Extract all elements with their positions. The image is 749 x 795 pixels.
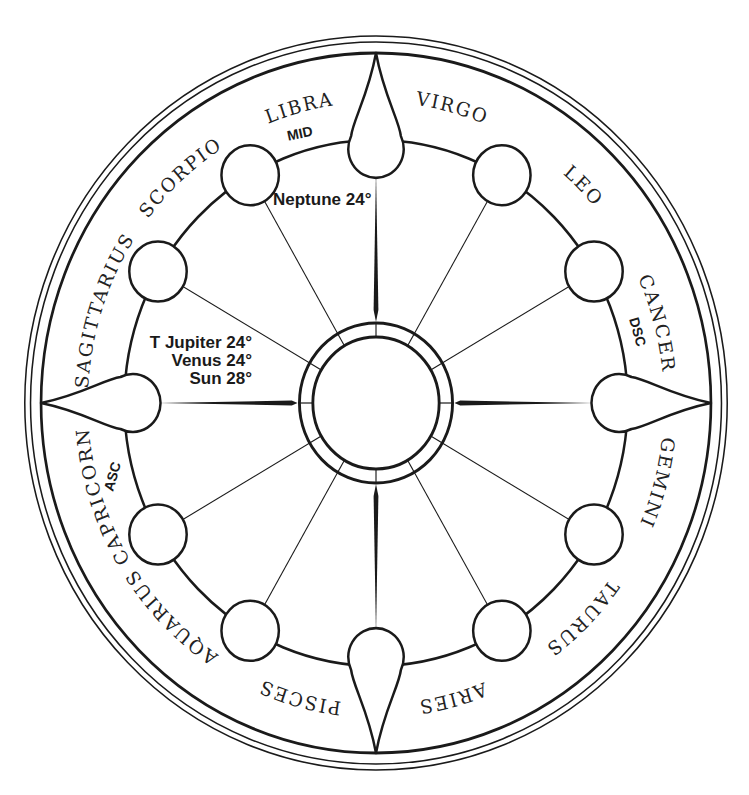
sign-libra: LIBRA [262, 88, 335, 128]
house-node [565, 505, 622, 565]
svg-text:LEO: LEO [560, 161, 607, 211]
astrology-chart-wheel: CAPRICORN SAGITTARIUS SCORPIO LIBRA VIRG… [0, 0, 749, 795]
house-node [129, 505, 186, 565]
house-node [565, 242, 622, 302]
cusp-top-mc [348, 53, 404, 178]
svg-text:LIBRA: LIBRA [262, 88, 335, 128]
svg-text:VIRGO: VIRGO [414, 87, 492, 128]
house-node [221, 145, 278, 205]
cusp-bottom-ic [348, 628, 404, 753]
cusp-left-asc [41, 374, 160, 432]
planet-venus-label: Venus 24° [171, 351, 252, 370]
svg-text:PISCES: PISCES [255, 676, 342, 720]
sign-aquarius: AQUARIUS [121, 565, 222, 670]
sign-virgo: VIRGO [414, 87, 492, 128]
angle-asc-label: ASC [101, 460, 125, 493]
sign-gemini: GEMINI [636, 436, 679, 532]
angle-dsc-label: DSC [626, 315, 650, 348]
svg-text:ARIES: ARIES [417, 678, 491, 718]
planet-neptune-label: Neptune 24° [273, 190, 372, 209]
sign-sagittarius: SAGITTARIUS [72, 229, 139, 389]
angle-mid-label: MID [286, 123, 314, 144]
house-node [129, 242, 186, 302]
house-node [473, 601, 530, 661]
cusp-right-dsc [591, 374, 710, 432]
sign-aries: ARIES [417, 678, 491, 718]
sign-leo: LEO [560, 161, 607, 211]
sign-pisces: PISCES [255, 676, 342, 720]
svg-text:CAPRICORN: CAPRICORN [72, 426, 134, 569]
house-node [221, 601, 278, 661]
svg-text:SAGITTARIUS: SAGITTARIUS [72, 229, 139, 389]
planet-jupiter-label: T Jupiter 24° [150, 333, 252, 352]
sign-capricorn: CAPRICORN [72, 426, 134, 569]
planet-sun-label: Sun 28° [189, 369, 252, 388]
house-node [473, 145, 530, 205]
center-inner-circle [313, 337, 439, 469]
svg-text:GEMINI: GEMINI [636, 436, 679, 532]
svg-text:AQUARIUS: AQUARIUS [121, 565, 222, 670]
